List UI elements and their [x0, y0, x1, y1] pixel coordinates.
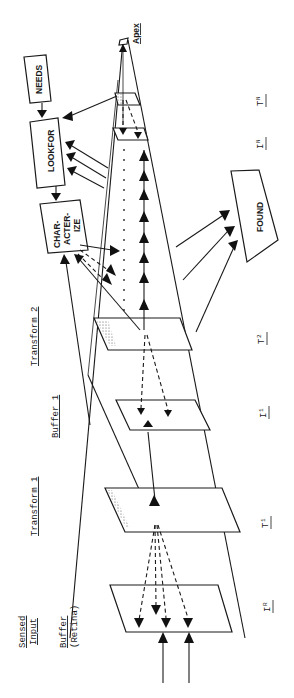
- svg-text:I: I: [259, 413, 269, 418]
- svg-text:N: N: [255, 96, 262, 100]
- plane-label-ir: I R: [262, 600, 273, 613]
- in-plane: [113, 128, 148, 140]
- apex-marker: [119, 38, 128, 45]
- transform2-plane: [94, 318, 192, 350]
- buffer-retina-label: Buffer: [59, 616, 69, 648]
- retina-plane: [110, 585, 232, 632]
- svg-text:1: 1: [258, 408, 265, 412]
- sensed-label-line1: Sensed: [18, 616, 28, 648]
- sensed-label-line2: Input: [29, 618, 39, 645]
- plane-label-i1: I 1: [258, 406, 269, 419]
- svg-text:I: I: [256, 144, 266, 149]
- up-arrow-column: [139, 150, 149, 330]
- needs-box: NEEDS: [24, 55, 51, 103]
- buffer1-plane: [116, 400, 210, 430]
- lookfor-box: LOOKFOR: [30, 118, 65, 188]
- buffer1-label: Buffer 1: [51, 395, 61, 438]
- retina-note-label: (Retina): [70, 605, 80, 648]
- perception-pyramid-diagram: NEEDS LOOKFOR CHAR- ACTER- IZE: [0, 0, 294, 698]
- lookfor-label: LOOKFOR: [46, 130, 56, 173]
- sensed-input-arrows: [158, 632, 194, 683]
- svg-text:2: 2: [256, 334, 263, 338]
- plane-label-in: I N: [255, 137, 266, 150]
- svg-text:I: I: [263, 607, 273, 612]
- needs-label: NEEDS: [34, 64, 44, 94]
- svg-text:1: 1: [260, 518, 267, 522]
- lookfor-to-characterize-arrow: [51, 186, 61, 201]
- apex-label: Apex: [131, 23, 141, 44]
- svg-text:N: N: [255, 139, 262, 143]
- cone-to-lookfor-arrows: [65, 140, 108, 188]
- transform1-plane: [105, 488, 240, 532]
- plane-label-tn: T N: [255, 94, 266, 107]
- needs-to-lookfor-arrow: [37, 103, 47, 118]
- transform2-label: Transform 2: [30, 307, 40, 366]
- found-label: FOUND: [255, 202, 265, 232]
- characterize-label-2: ACTER-: [62, 213, 72, 245]
- plane-label-t2: T 2: [256, 332, 267, 345]
- transform1-label: Transform 1: [30, 477, 40, 536]
- characterize-label-1: CHAR-: [52, 220, 62, 248]
- found-box: FOUND: [231, 170, 278, 262]
- svg-text:R: R: [262, 602, 269, 606]
- tn-to-lookfor-arrow: [62, 96, 117, 121]
- dotted-column: [123, 149, 125, 311]
- cone-to-found-arrows: [176, 210, 238, 332]
- plane-label-t1: T 1: [260, 516, 271, 529]
- characterize-label-3: IZE: [72, 218, 82, 232]
